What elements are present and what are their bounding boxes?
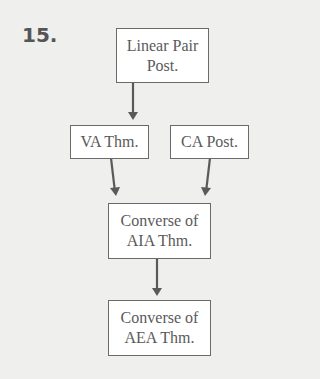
arrowhead-icon xyxy=(128,112,138,120)
node-label-line: Linear Pair xyxy=(127,36,199,56)
arrow-ca-to-aia xyxy=(206,158,210,192)
arrowhead-icon xyxy=(152,288,162,296)
node-label-line: AIA Thm. xyxy=(127,231,192,251)
node-converse-aia-thm: Converse of AIA Thm. xyxy=(108,203,211,259)
node-label-line: CA Post. xyxy=(181,132,238,152)
node-converse-aea-thm: Converse of AEA Thm. xyxy=(108,300,211,356)
arrow-va-to-aia xyxy=(111,158,115,192)
node-label-line: AEA Thm. xyxy=(125,328,195,348)
node-label-line: VA Thm. xyxy=(80,132,138,152)
arrowhead-icon xyxy=(110,187,120,196)
node-linear-pair-post: Linear Pair Post. xyxy=(116,28,209,83)
node-label-line: Converse of xyxy=(121,308,199,328)
node-ca-post: CA Post. xyxy=(170,125,249,159)
arrowhead-icon xyxy=(201,187,211,196)
node-label-line: Post. xyxy=(147,56,179,76)
node-label-line: Converse of xyxy=(121,211,199,231)
node-va-thm: VA Thm. xyxy=(70,125,149,159)
